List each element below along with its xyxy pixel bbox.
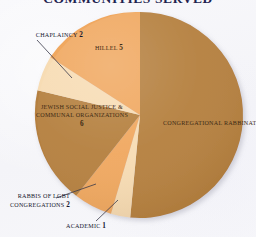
slice-label-chaplaincy: Chaplaincy 2 <box>17 31 83 41</box>
slice-label-chaplaincy-name: Chaplaincy <box>36 32 78 38</box>
slice-label-rabbis-of-lgbt-value: 2 <box>66 201 70 209</box>
slice-label-rabbis-of-lgbt-line2: Congregations <box>10 202 64 208</box>
slice-label-jewish-social-justice-line1: Jewish Social Justice & <box>27 104 137 112</box>
slice-label-jewish-social-justice-value: 6 <box>27 120 137 129</box>
slice-label-congregational-rabbinate: Congregational Rabbinate 17 <box>163 119 237 129</box>
slice-label-rabbis-of-lgbt-line1: Rabbis of LGBT <box>2 193 70 201</box>
slice-label-academic: Academic 1 <box>66 222 124 232</box>
slice-label-chaplaincy-value: 2 <box>79 31 83 39</box>
chart-page: Communities Served <box>0 0 256 237</box>
slice-label-rabbis-of-lgbt-congregations: Rabbis of LGBT Congregations 2 <box>2 193 70 210</box>
slice-label-hillel-value: 5 <box>119 44 123 52</box>
slice-label-rabbis-of-lgbt-line2-group: Congregations 2 <box>2 201 70 210</box>
slice-label-hillel-name: Hillel <box>95 45 118 51</box>
slice-label-academic-value: 1 <box>102 222 106 230</box>
slice-label-academic-name: Academic <box>66 223 101 229</box>
slice-label-jewish-social-justice: Jewish Social Justice & Communal Organiz… <box>27 104 137 129</box>
slice-label-congregational-rabbinate-name: Congregational Rabbinate <box>163 120 256 126</box>
slice-label-jewish-social-justice-line2: Communal Organizations <box>27 112 137 120</box>
slice-label-hillel: Hillel 5 <box>85 44 133 54</box>
